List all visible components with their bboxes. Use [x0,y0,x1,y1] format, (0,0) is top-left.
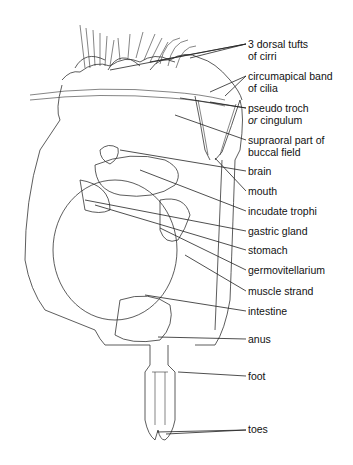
label-toes: toes [248,424,268,436]
label-gastric-gland: gastric gland [248,226,308,238]
label-pseudo-troch: pseudo trochor cingulum [248,103,309,126]
label-mouth: mouth [248,186,277,198]
label-anus: anus [248,334,271,346]
label-intestine: intestine [248,306,287,318]
label-germovitellarium: germovitellarium [248,265,325,277]
label-stomach: stomach [248,245,288,257]
label-incudate-trophi: incudate trophi [248,206,317,218]
label-dorsal-tufts: 3 dorsal tuftsof cirri [248,39,308,62]
label-brain: brain [248,166,271,178]
label-supraoral: supraoral part ofbuccal field [248,135,324,158]
label-foot: foot [248,371,266,383]
rotifer-diagram: 3 dorsal tuftsof cirri circumapical band… [0,0,353,465]
label-circumapical-band: circumapical bandof cilia [248,71,333,94]
label-muscle-strand: muscle strand [248,286,313,298]
